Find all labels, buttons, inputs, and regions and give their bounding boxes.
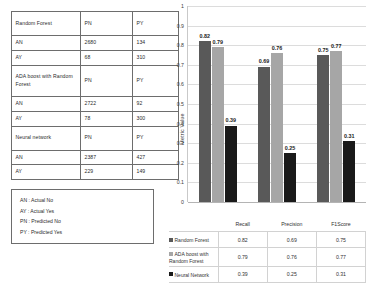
model-name-cell: Random Forest	[12, 12, 81, 36]
bar[interactable]: 0.31	[343, 141, 355, 202]
table-row: RecallPrecisionF1Score	[169, 216, 366, 232]
value-cell: 68	[81, 50, 133, 65]
series-value-cell: 0.39	[218, 266, 267, 282]
bar[interactable]: 0.79	[212, 47, 224, 202]
bar[interactable]: 0.25	[284, 153, 296, 202]
series-value-cell: 0.76	[267, 248, 316, 267]
bar[interactable]: 0.76	[271, 53, 283, 202]
legend-label: Neural Network	[175, 271, 209, 277]
spacer-cell	[169, 216, 218, 232]
y-tick-label: 0.1	[177, 179, 184, 185]
legend-label: ADA boost with Random Forest	[169, 251, 208, 264]
value-cell: 229	[81, 165, 133, 180]
legend-entry[interactable]: Neural Network	[169, 266, 218, 282]
bar-value-label: 0.82	[199, 33, 210, 39]
bar-fill	[225, 126, 237, 202]
bar-fill	[199, 41, 211, 202]
row-label: AY	[12, 50, 81, 65]
model-name-cell: ADA boost with Random Forest	[12, 65, 81, 96]
row-label: AN	[12, 36, 81, 51]
key-line: AN : Actual No	[20, 195, 147, 205]
bar-fill	[343, 141, 355, 202]
y-tick-label: 0.8	[177, 42, 184, 48]
value-cell: 2680	[81, 36, 133, 51]
table-row: Random Forest0.820.690.75	[169, 232, 366, 248]
key-line: AY : Actual Yes	[20, 206, 147, 216]
y-tick-label: 0.5	[177, 101, 184, 107]
bar-value-label: 0.69	[259, 58, 270, 64]
bar-fill	[212, 47, 224, 202]
bar[interactable]: 0.82	[199, 41, 211, 202]
bar-fill	[271, 53, 283, 202]
model-name-cell: Neural network	[12, 126, 81, 150]
value-cell: 2722	[81, 96, 133, 111]
series-value-table: RecallPrecisionF1ScoreRandom Forest0.820…	[169, 216, 366, 283]
column-header-pn: PN	[81, 65, 133, 96]
bar-value-label: 0.25	[285, 145, 296, 151]
series-value-cell: 0.31	[316, 266, 365, 282]
metrics-bar-chart: Metric Value 00.10.20.30.40.50.60.70.80.…	[154, 4, 368, 300]
plot-area: 0.820.790.390.690.760.250.750.770.31	[187, 6, 366, 202]
bar-fill	[258, 67, 270, 202]
series-value-cell: 0.75	[316, 232, 365, 248]
series-value-cell: 0.79	[218, 248, 267, 267]
row-label: AY	[12, 111, 81, 126]
y-tick-label: 0	[181, 199, 184, 205]
bar-group: 0.750.770.31	[307, 6, 366, 202]
series-value-body: RecallPrecisionF1ScoreRandom Forest0.820…	[169, 216, 366, 282]
series-value-cell: 0.82	[218, 232, 267, 248]
y-axis-tick-labels: 00.10.20.30.40.50.60.70.80.91	[169, 6, 186, 202]
bar-value-label: 0.75	[318, 47, 329, 53]
plot-area-wrapper: 00.10.20.30.40.50.60.70.80.91 0.820.790.…	[169, 6, 366, 216]
series-value-cell: 0.25	[267, 266, 316, 282]
y-tick-label: 0.6	[177, 81, 184, 87]
key-line: PN : Predicted No	[20, 216, 147, 226]
figure-root: Random Forest PN PY AN 2680 134 AY 68 31…	[0, 0, 368, 304]
bar-group: 0.820.790.39	[188, 6, 247, 202]
value-cell: 2387	[81, 150, 133, 165]
y-tick-label: 1	[181, 3, 184, 9]
bar-group: 0.690.760.25	[247, 6, 306, 202]
legend-swatch-icon	[169, 238, 173, 242]
bar-value-label: 0.79	[212, 39, 223, 45]
abbreviation-key-box: AN : Actual No AY : Actual Yes PN : Pred…	[11, 189, 154, 244]
value-cell: 78	[81, 111, 133, 126]
legend-swatch-icon	[169, 252, 173, 256]
y-tick-label: 0.3	[177, 140, 184, 146]
legend-label: Random Forest	[175, 237, 209, 243]
table-row: Neural Network0.390.250.31	[169, 266, 366, 282]
y-tick-label: 0.4	[177, 121, 184, 127]
key-line: PY : Predicted Yes	[20, 227, 147, 237]
row-label: AN	[12, 150, 81, 165]
gridline	[188, 202, 366, 203]
bar-fill	[330, 51, 342, 202]
chart-data-table: RecallPrecisionF1ScoreRandom Forest0.820…	[169, 216, 366, 283]
bar-value-label: 0.39	[225, 117, 236, 123]
confusion-matrix-panel: Random Forest PN PY AN 2680 134 AY 68 31…	[11, 11, 154, 244]
bar-value-label: 0.31	[344, 133, 355, 139]
legend-entry[interactable]: ADA boost with Random Forest	[169, 248, 218, 267]
bar-fill	[284, 153, 296, 202]
y-tick-label: 0.7	[177, 62, 184, 68]
series-value-cell: 0.77	[316, 248, 365, 267]
column-header-pn: PN	[81, 12, 133, 36]
bar[interactable]: 0.39	[225, 126, 237, 202]
bar-value-label: 0.77	[331, 43, 342, 49]
category-label: Precision	[267, 216, 316, 232]
column-header-pn: PN	[81, 126, 133, 150]
series-value-cell: 0.69	[267, 232, 316, 248]
bar[interactable]: 0.75	[317, 55, 329, 202]
bar-fill	[317, 55, 329, 202]
row-label: AY	[12, 165, 81, 180]
table-row: ADA boost with Random Forest0.790.760.77	[169, 248, 366, 267]
bar-groups: 0.820.790.390.690.760.250.750.770.31	[188, 6, 366, 202]
bar[interactable]: 0.77	[330, 51, 342, 202]
y-tick-label: 0.2	[177, 160, 184, 166]
row-label: AN	[12, 96, 81, 111]
bar-value-label: 0.76	[272, 45, 283, 51]
y-tick-label: 0.9	[177, 23, 184, 29]
bar[interactable]: 0.69	[258, 67, 270, 202]
legend-swatch-icon	[169, 272, 173, 276]
legend-entry[interactable]: Random Forest	[169, 232, 218, 248]
category-label: F1Score	[316, 216, 365, 232]
